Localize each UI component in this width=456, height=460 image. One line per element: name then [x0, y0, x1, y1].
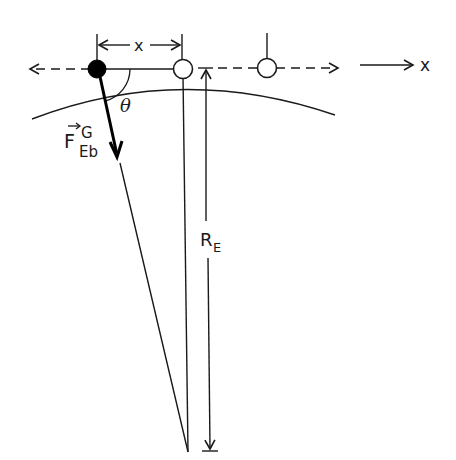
- x-distance-label: x: [134, 36, 143, 55]
- force-label-sub: Eb: [79, 143, 98, 161]
- filled-ball: [88, 60, 106, 78]
- re-label-main: R: [200, 229, 213, 250]
- x-axis-label: x: [420, 55, 430, 75]
- hollow-ball-center: [174, 60, 193, 79]
- gravity-diagram: x x θ F G Eb R E: [0, 0, 456, 460]
- filled-ball-radius-line: [120, 163, 188, 452]
- gravity-force-vector: [99, 72, 117, 155]
- hollow-ball-right: [258, 59, 277, 78]
- re-label-sub: E: [213, 240, 221, 255]
- center-ball-radius-line: [183, 76, 188, 452]
- force-label: F G Eb: [64, 123, 98, 161]
- re-arrow-down: [208, 258, 210, 449]
- theta-label: θ: [120, 95, 131, 116]
- force-label-main: F: [64, 130, 75, 152]
- force-label-sup: G: [81, 124, 93, 142]
